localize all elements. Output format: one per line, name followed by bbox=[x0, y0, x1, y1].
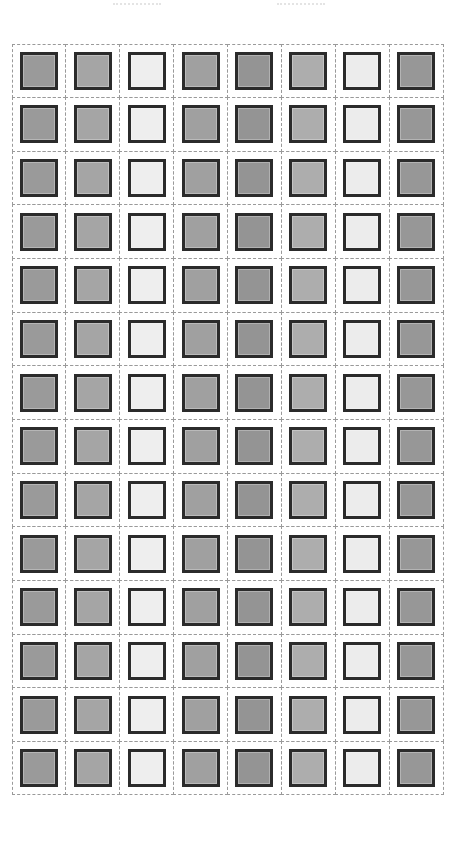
grid-cell[interactable] bbox=[65, 687, 120, 742]
color-swatch[interactable] bbox=[397, 266, 435, 304]
grid-cell[interactable] bbox=[65, 634, 120, 689]
color-swatch[interactable] bbox=[74, 696, 112, 734]
color-swatch[interactable] bbox=[182, 52, 220, 90]
grid-cell[interactable] bbox=[119, 741, 174, 796]
color-swatch[interactable] bbox=[128, 105, 166, 143]
grid-cell[interactable] bbox=[227, 580, 282, 635]
grid-cell[interactable] bbox=[65, 258, 120, 313]
grid-cell[interactable] bbox=[227, 634, 282, 689]
grid-cell[interactable] bbox=[227, 741, 282, 796]
grid-cell[interactable] bbox=[173, 258, 228, 313]
color-swatch[interactable] bbox=[235, 696, 273, 734]
grid-cell[interactable] bbox=[173, 151, 228, 206]
grid-cell[interactable] bbox=[227, 312, 282, 367]
grid-cell[interactable] bbox=[12, 204, 67, 259]
color-swatch[interactable] bbox=[289, 427, 327, 465]
color-swatch[interactable] bbox=[397, 320, 435, 358]
grid-cell[interactable] bbox=[335, 741, 390, 796]
grid-cell[interactable] bbox=[389, 312, 444, 367]
grid-cell[interactable] bbox=[389, 741, 444, 796]
grid-cell[interactable] bbox=[335, 473, 390, 528]
color-swatch[interactable] bbox=[289, 696, 327, 734]
grid-cell[interactable] bbox=[173, 473, 228, 528]
grid-cell[interactable] bbox=[65, 204, 120, 259]
color-swatch[interactable] bbox=[74, 105, 112, 143]
grid-cell[interactable] bbox=[65, 580, 120, 635]
color-swatch[interactable] bbox=[74, 535, 112, 573]
grid-cell[interactable] bbox=[227, 419, 282, 474]
grid-cell[interactable] bbox=[227, 44, 282, 99]
grid-cell[interactable] bbox=[173, 634, 228, 689]
grid-cell[interactable] bbox=[65, 741, 120, 796]
grid-cell[interactable] bbox=[65, 419, 120, 474]
color-swatch[interactable] bbox=[235, 266, 273, 304]
color-swatch[interactable] bbox=[397, 105, 435, 143]
grid-cell[interactable] bbox=[119, 634, 174, 689]
color-swatch[interactable] bbox=[235, 52, 273, 90]
color-swatch[interactable] bbox=[20, 266, 58, 304]
grid-cell[interactable] bbox=[12, 44, 67, 99]
color-swatch[interactable] bbox=[20, 749, 58, 787]
grid-cell[interactable] bbox=[281, 634, 336, 689]
color-swatch[interactable] bbox=[128, 535, 166, 573]
color-swatch[interactable] bbox=[289, 159, 327, 197]
grid-cell[interactable] bbox=[389, 44, 444, 99]
color-swatch[interactable] bbox=[74, 320, 112, 358]
color-swatch[interactable] bbox=[128, 749, 166, 787]
color-swatch[interactable] bbox=[397, 427, 435, 465]
grid-cell[interactable] bbox=[173, 44, 228, 99]
grid-cell[interactable] bbox=[389, 365, 444, 420]
color-swatch[interactable] bbox=[343, 642, 381, 680]
color-swatch[interactable] bbox=[182, 266, 220, 304]
color-swatch[interactable] bbox=[182, 159, 220, 197]
grid-cell[interactable] bbox=[12, 419, 67, 474]
color-swatch[interactable] bbox=[128, 266, 166, 304]
color-swatch[interactable] bbox=[128, 213, 166, 251]
grid-cell[interactable] bbox=[389, 687, 444, 742]
grid-cell[interactable] bbox=[335, 526, 390, 581]
color-swatch[interactable] bbox=[20, 374, 58, 412]
grid-cell[interactable] bbox=[65, 312, 120, 367]
color-swatch[interactable] bbox=[20, 481, 58, 519]
color-swatch[interactable] bbox=[74, 213, 112, 251]
grid-cell[interactable] bbox=[389, 526, 444, 581]
grid-cell[interactable] bbox=[12, 151, 67, 206]
grid-cell[interactable] bbox=[12, 312, 67, 367]
color-swatch[interactable] bbox=[289, 52, 327, 90]
grid-cell[interactable] bbox=[335, 204, 390, 259]
color-swatch[interactable] bbox=[20, 642, 58, 680]
color-swatch[interactable] bbox=[397, 535, 435, 573]
grid-cell[interactable] bbox=[335, 580, 390, 635]
grid-cell[interactable] bbox=[389, 151, 444, 206]
grid-cell[interactable] bbox=[281, 580, 336, 635]
grid-cell[interactable] bbox=[335, 258, 390, 313]
color-swatch[interactable] bbox=[343, 105, 381, 143]
grid-cell[interactable] bbox=[335, 419, 390, 474]
grid-cell[interactable] bbox=[335, 687, 390, 742]
color-swatch[interactable] bbox=[74, 52, 112, 90]
grid-cell[interactable] bbox=[281, 473, 336, 528]
grid-cell[interactable] bbox=[12, 526, 67, 581]
grid-cell[interactable] bbox=[227, 151, 282, 206]
color-swatch[interactable] bbox=[397, 159, 435, 197]
grid-cell[interactable] bbox=[173, 741, 228, 796]
color-swatch[interactable] bbox=[20, 52, 58, 90]
grid-cell[interactable] bbox=[227, 526, 282, 581]
grid-cell[interactable] bbox=[12, 687, 67, 742]
grid-cell[interactable] bbox=[281, 258, 336, 313]
grid-cell[interactable] bbox=[227, 687, 282, 742]
color-swatch[interactable] bbox=[397, 696, 435, 734]
color-swatch[interactable] bbox=[397, 374, 435, 412]
grid-cell[interactable] bbox=[389, 473, 444, 528]
grid-cell[interactable] bbox=[173, 97, 228, 152]
grid-cell[interactable] bbox=[12, 258, 67, 313]
grid-cell[interactable] bbox=[119, 151, 174, 206]
color-swatch[interactable] bbox=[343, 696, 381, 734]
color-swatch[interactable] bbox=[182, 374, 220, 412]
color-swatch[interactable] bbox=[20, 105, 58, 143]
grid-cell[interactable] bbox=[389, 258, 444, 313]
color-swatch[interactable] bbox=[74, 427, 112, 465]
grid-cell[interactable] bbox=[389, 204, 444, 259]
grid-cell[interactable] bbox=[281, 741, 336, 796]
grid-cell[interactable] bbox=[281, 526, 336, 581]
